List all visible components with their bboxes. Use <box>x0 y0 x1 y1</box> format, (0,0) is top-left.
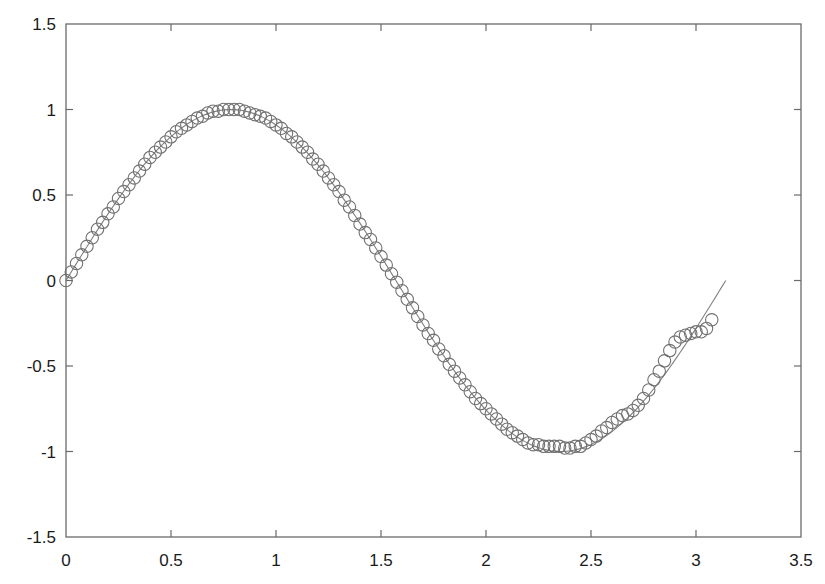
x-tick-label: 2.5 <box>579 551 603 570</box>
x-tick-label: 1.5 <box>369 551 393 570</box>
x-tick-label: 3.5 <box>789 551 813 570</box>
x-tick-label: 3 <box>691 551 700 570</box>
y-tick-label: 1 <box>47 101 56 120</box>
y-tick-label: 0 <box>47 272 56 291</box>
x-tick-label: 0 <box>61 551 70 570</box>
y-tick-label: 0.5 <box>32 186 56 205</box>
chart: 00.511.522.533.5 1.510.50-0.5-1-1.5 <box>0 0 825 584</box>
x-tick-label: 0.5 <box>159 551 183 570</box>
x-tick-label: 1 <box>271 551 280 570</box>
y-tick-label: 1.5 <box>32 15 56 34</box>
y-tick-label: -1 <box>41 443 56 462</box>
x-tick-label: 2 <box>481 551 490 570</box>
y-tick-label: -1.5 <box>27 528 56 547</box>
chart-background <box>0 0 825 584</box>
y-tick-label: -0.5 <box>27 357 56 376</box>
